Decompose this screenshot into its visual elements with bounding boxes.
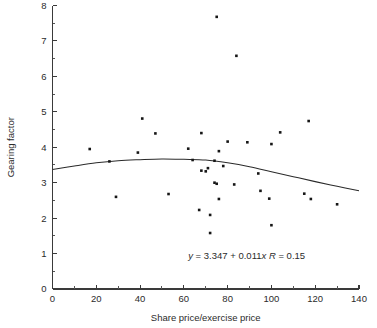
fit-curve [53, 159, 360, 191]
x-tick-label: 60 [179, 293, 190, 304]
scatter-plot-figure: 020406080100120140012345678Share price/e… [0, 0, 377, 328]
data-point-marker [235, 55, 238, 58]
x-tick-label: 40 [135, 293, 146, 304]
data-point-marker [108, 160, 111, 163]
x-tick-label: 0 [50, 293, 55, 304]
regression-equation: y = 3.347 + 0.011x R = 0.15 [187, 250, 305, 261]
y-tick-label: 0 [41, 283, 46, 294]
data-point-marker [233, 183, 236, 186]
data-point-marker [246, 141, 249, 144]
axes [53, 6, 360, 290]
data-point-marker [200, 132, 203, 135]
plot-canvas: 020406080100120140012345678Share price/e… [0, 0, 377, 328]
data-point-marker [209, 214, 212, 217]
data-point-marker [204, 170, 207, 173]
y-tick-label: 6 [41, 71, 46, 82]
data-point-marker [310, 198, 313, 201]
data-point-marker [187, 147, 190, 150]
data-point-marker [137, 151, 140, 154]
data-point-marker [259, 190, 262, 193]
x-tick-label: 80 [222, 293, 233, 304]
equation-part-equals-2: = [276, 250, 287, 261]
y-tick-label: 3 [41, 177, 46, 188]
data-points-layer [88, 16, 338, 235]
y-tick-label: 5 [41, 106, 46, 117]
y-axis-title: Gearing factor [5, 117, 16, 177]
y-tick-label: 4 [41, 142, 46, 153]
data-point-marker [213, 159, 216, 162]
data-point-marker [167, 193, 170, 196]
data-point-marker [154, 132, 157, 135]
equation-part-intercept: 3.347 [204, 250, 228, 261]
data-point-marker [218, 198, 221, 201]
data-point-marker [218, 150, 221, 153]
x-tick-label: 20 [91, 293, 102, 304]
data-point-marker [257, 172, 260, 175]
data-point-marker [209, 232, 212, 235]
data-point-marker [88, 148, 91, 151]
equation-part-equals-1: = [193, 250, 204, 261]
data-point-marker [215, 182, 218, 185]
data-point-marker [270, 143, 273, 146]
y-tick-label: 7 [41, 35, 46, 46]
data-point-marker [270, 224, 273, 227]
data-point-marker [141, 117, 144, 120]
y-tick-label: 1 [41, 248, 46, 259]
data-point-marker [268, 197, 271, 200]
data-point-marker [198, 209, 201, 212]
x-tick-label: 100 [263, 293, 279, 304]
equation-part-r-value: 0.15 [287, 250, 306, 261]
equation-part-plus: + [228, 250, 239, 261]
annotations-layer: y = 3.347 + 0.011x R = 0.15 [187, 250, 305, 261]
data-point-marker [226, 140, 229, 143]
x-tick-label: 120 [307, 293, 323, 304]
data-point-marker [336, 203, 339, 206]
axis-labels-layer: 020406080100120140012345678Share price/e… [5, 0, 367, 323]
x-axis-title: Share price/exercise price [151, 312, 261, 323]
data-point-marker [215, 16, 218, 19]
data-point-marker [303, 192, 306, 195]
x-tick-label: 140 [351, 293, 367, 304]
y-tick-label: 8 [41, 0, 46, 11]
data-point-marker [207, 167, 210, 170]
data-point-marker [307, 120, 310, 123]
y-tick-label: 2 [41, 213, 46, 224]
data-point-marker [115, 196, 118, 199]
data-point-marker [222, 165, 225, 168]
data-point-marker [200, 169, 203, 172]
data-point-marker [191, 159, 194, 162]
equation-part-slope: 0.011 [238, 250, 261, 261]
fit-curve-layer [53, 159, 360, 191]
data-point-marker [279, 131, 282, 134]
